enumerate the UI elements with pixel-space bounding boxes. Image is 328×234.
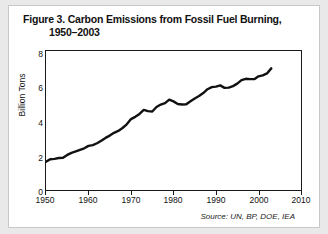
chart-title-line-1: Figure 3. Carbon Emissions from Fossil F…	[23, 13, 282, 25]
x-tick-label-1950: 1950	[30, 196, 60, 205]
y-axis-tick-labels: 8 6 4 2 0	[29, 50, 43, 192]
x-tick-label-1970: 1970	[116, 196, 146, 205]
y-tick-label-4: 4	[31, 119, 43, 128]
y-tick-label-6: 6	[31, 84, 43, 93]
source-note: Source: UN, BP, DOE, IEA	[200, 212, 295, 221]
figure-card: Figure 3. Carbon Emissions from Fossil F…	[8, 5, 320, 228]
plot-area: Source: UN, BP, DOE, IEA	[45, 50, 302, 191]
y-tick-label-8: 8	[31, 50, 43, 59]
x-tick-label-1980: 1980	[158, 196, 188, 205]
carbon-emissions-series	[46, 68, 271, 161]
emissions-line-chart	[46, 51, 301, 190]
x-tick-label-2000: 2000	[244, 196, 274, 205]
chart-title-line-2: 1950–2003	[23, 26, 313, 39]
x-tick-label-1990: 1990	[201, 196, 231, 205]
page-title: Figure 3. Carbon Emissions from Fossil F…	[23, 13, 313, 39]
y-axis-title: Billion Tons	[17, 60, 27, 130]
x-tick-label-2010: 2010	[286, 196, 316, 205]
x-tick-label-1960: 1960	[73, 196, 103, 205]
y-tick-label-2: 2	[31, 154, 43, 163]
